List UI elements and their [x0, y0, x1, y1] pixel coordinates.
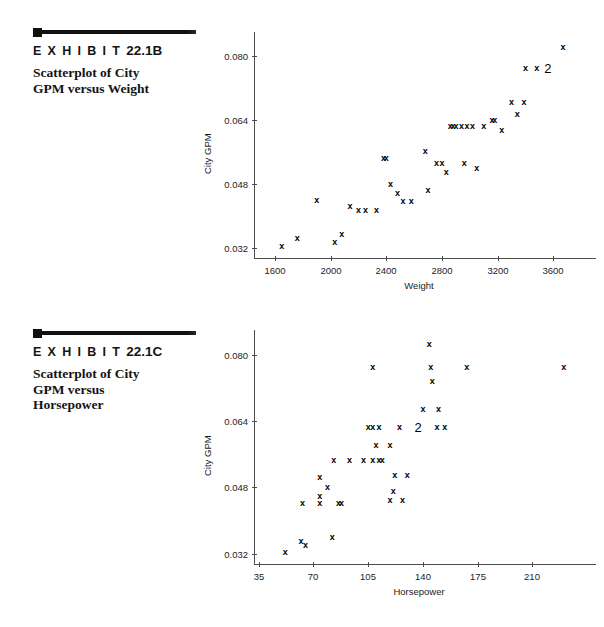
x-axis-tick-label: 175 [470, 571, 486, 582]
data-point: x [363, 206, 368, 215]
data-point: x [474, 164, 479, 173]
data-point: x [509, 97, 514, 106]
data-point: x [370, 455, 375, 464]
data-point: x [384, 154, 389, 163]
exhibit-caption-22-1b: E X H I B I T 22.1B Scatterplot of CityG… [28, 28, 196, 96]
y-axis-tick-label: 0.032 [206, 549, 248, 560]
data-point: x [303, 541, 308, 550]
data-point: x [356, 206, 361, 215]
data-point: x [430, 377, 435, 386]
data-point: x [444, 168, 449, 177]
exhibit-title-word: E X H I B I T [33, 345, 121, 359]
x-axis-tick-label: 2400 [375, 265, 396, 276]
x-axis-tick-label: 140 [415, 571, 431, 582]
data-point: x [331, 455, 336, 464]
scatterplot-city-gpm-vs-weight: 0.0320.0480.0640.08016002000240028003200… [196, 34, 596, 299]
exhibit-caption-22-1c: E X H I B I T 22.1C Scatterplot of CityG… [28, 329, 196, 413]
exhibit-title: E X H I B I T 22.1C [33, 344, 196, 359]
data-point: x [561, 43, 566, 52]
data-point: 2 [415, 421, 422, 434]
data-point: x [481, 122, 486, 131]
data-point: x [317, 499, 322, 508]
data-point: x [428, 363, 433, 372]
data-point: x [423, 147, 428, 156]
y-axis-tick [252, 248, 257, 249]
data-point: x [492, 116, 497, 125]
data-point: x [374, 206, 379, 215]
rule-line [41, 331, 196, 335]
data-point: x [279, 242, 284, 251]
exhibit-title: E X H I B I T 22.1B [33, 43, 196, 58]
y-axis-line [254, 32, 255, 258]
x-axis-tick [532, 562, 533, 567]
y-axis-tick-label: 0.048 [206, 482, 248, 493]
data-point: x [300, 498, 305, 507]
data-point: x [442, 423, 447, 432]
data-point: x [400, 495, 405, 504]
x-axis-tick-label: 2800 [431, 265, 452, 276]
rule-taper [178, 331, 196, 335]
x-axis-title: Horsepower [393, 586, 444, 597]
data-point: x [400, 197, 405, 206]
data-point: x [388, 180, 393, 189]
exhibit-rule [33, 329, 196, 338]
data-point: 2 [544, 62, 551, 75]
exhibit-title-word: E X H I B I T [33, 44, 121, 58]
data-point: x [420, 404, 425, 413]
x-axis-tick [313, 562, 314, 567]
data-point: x [405, 470, 410, 479]
data-point: x [470, 122, 475, 131]
exhibit-subtitle: Scatterplot of CityGPM versus Weight [33, 65, 196, 96]
page-root: { "exhibits": [ { "id": "22.1B", "title_… [0, 0, 604, 627]
x-axis-tick [442, 256, 443, 261]
data-point: x [426, 185, 431, 194]
data-point: x [332, 237, 337, 246]
x-axis-tick-label: 3600 [542, 265, 563, 276]
x-axis-tick-label: 105 [360, 571, 376, 582]
y-axis-tick [252, 355, 257, 356]
y-axis-title: City GPM [202, 435, 213, 476]
x-axis-tick [386, 256, 387, 261]
exhibit-number: 22.1C [126, 344, 162, 359]
x-axis-tick-label: 2000 [320, 265, 341, 276]
x-axis-title: Weight [404, 280, 433, 291]
data-point: x [380, 455, 385, 464]
y-axis-tick [252, 421, 257, 422]
x-axis-tick [498, 256, 499, 261]
data-point: x [361, 455, 366, 464]
y-axis-tick-label: 0.032 [206, 243, 248, 254]
y-axis-tick [252, 487, 257, 488]
y-axis-tick [252, 554, 257, 555]
data-point: x [317, 472, 322, 481]
y-axis-tick-label: 0.080 [206, 51, 248, 62]
data-point: x [453, 122, 458, 131]
x-axis-tick-label: 1600 [264, 265, 285, 276]
y-axis-tick-label: 0.064 [206, 115, 248, 126]
x-axis-tick-label: 210 [524, 571, 540, 582]
y-axis-line [254, 330, 255, 564]
data-point: x [434, 423, 439, 432]
data-point: x [373, 441, 378, 450]
data-point: x [347, 455, 352, 464]
exhibit-rule [33, 28, 196, 37]
data-point: x [370, 363, 375, 372]
data-point: x [464, 363, 469, 372]
y-axis-tick [252, 120, 257, 121]
data-point: x [522, 97, 527, 106]
data-point: x [388, 495, 393, 504]
exhibit-number: 22.1B [126, 43, 162, 58]
y-axis-tick-label: 0.080 [206, 350, 248, 361]
x-axis-tick [368, 562, 369, 567]
data-point: x [499, 125, 504, 134]
data-point: x [523, 64, 528, 73]
data-point: x [388, 441, 393, 450]
x-axis-tick [275, 256, 276, 261]
data-point: x [397, 423, 402, 432]
exhibit-subtitle: Scatterplot of CityGPM versusHorsepower [33, 366, 196, 413]
x-axis-tick [553, 256, 554, 261]
x-axis-tick-label: 35 [254, 571, 265, 582]
scatterplot-city-gpm-vs-horsepower: 0.0320.0480.0640.0803570105140175210Hors… [196, 332, 596, 604]
data-point: x [348, 202, 353, 211]
data-point: x [339, 230, 344, 239]
data-point: x [377, 423, 382, 432]
